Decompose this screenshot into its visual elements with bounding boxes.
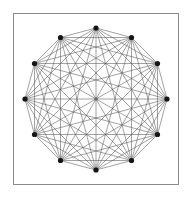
graph-vertex <box>93 167 98 172</box>
graph-edge <box>158 64 168 100</box>
graph-vertex <box>58 35 63 40</box>
graph-vertex <box>32 61 37 66</box>
graph-vertex <box>164 96 169 101</box>
graph-edge <box>61 161 97 171</box>
graph-edge <box>35 135 97 171</box>
figure-root <box>0 0 191 200</box>
graph-vertex <box>93 25 98 30</box>
graph-vertex <box>22 96 27 101</box>
center-marker-layer <box>94 97 98 101</box>
graph-edge <box>25 99 61 161</box>
complete-graph-diagram <box>0 0 191 200</box>
graph-vertex <box>155 132 160 137</box>
graph-vertex <box>32 132 37 137</box>
graph-vertex <box>58 158 63 163</box>
graph-edge <box>61 64 158 161</box>
graph-edge <box>96 28 132 38</box>
graph-center-marker <box>94 97 98 101</box>
graph-edge <box>25 99 35 135</box>
graph-edge <box>61 28 97 38</box>
graph-edge <box>25 99 132 161</box>
graph-edge <box>158 99 168 135</box>
graph-edge <box>61 38 158 64</box>
graph-edge <box>61 38 168 100</box>
graph-edge <box>35 38 61 135</box>
graph-edge <box>25 64 35 100</box>
graph-vertex <box>129 158 134 163</box>
graph-edge <box>61 38 158 135</box>
graph-edge <box>25 38 61 100</box>
graph-edge <box>96 161 132 171</box>
graph-edge <box>35 64 97 171</box>
graph-edge <box>35 64 61 161</box>
graph-edge <box>35 38 132 135</box>
graph-vertex <box>155 61 160 66</box>
graph-vertex <box>129 35 134 40</box>
graph-edge <box>35 64 132 161</box>
